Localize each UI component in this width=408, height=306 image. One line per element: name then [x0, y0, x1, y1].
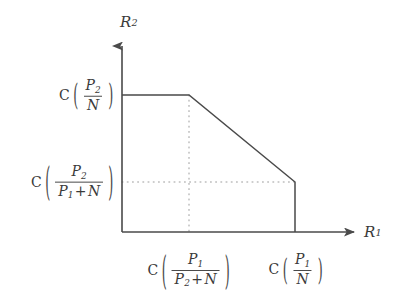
- denominator-operator: +: [190, 271, 205, 287]
- y-axis-label-sub: 2: [131, 17, 137, 28]
- fraction-denominator: P2+N: [172, 270, 220, 289]
- capacity-function-symbol: C: [31, 174, 42, 190]
- fraction: P2 P1+N: [55, 164, 103, 201]
- numerator-sub: 2: [81, 171, 87, 180]
- left-paren-icon: (: [45, 160, 50, 204]
- denominator-right: N: [204, 271, 216, 287]
- x-axis-label-sub: 1: [375, 227, 381, 238]
- right-paren-icon: ): [318, 252, 323, 286]
- denominator-left-base: P: [58, 182, 67, 198]
- numerator-sub: 1: [198, 260, 204, 269]
- denominator-left-base: P: [175, 271, 184, 287]
- x-axis-label-base: R: [364, 223, 375, 241]
- right-paren-icon: ): [108, 78, 113, 112]
- fraction-denominator: N: [84, 95, 102, 112]
- y-axis-label: R2: [120, 12, 138, 31]
- numerator-base: P: [85, 77, 94, 93]
- numerator-sub: 2: [95, 85, 101, 94]
- y-tick-label-lower: C ( P2 P1+N ): [31, 164, 116, 201]
- left-paren-icon: (: [282, 252, 287, 286]
- fraction: P1 N: [292, 252, 313, 287]
- right-paren-icon: ): [224, 248, 229, 292]
- capacity-function-symbol: C: [268, 261, 279, 277]
- left-paren-icon: (: [162, 248, 167, 292]
- x-axis-label: R1: [364, 222, 382, 241]
- denominator-right: N: [88, 182, 100, 198]
- x-tick-label-left: C ( P1 P2+N ): [148, 252, 233, 289]
- fraction-numerator: P1: [292, 252, 313, 270]
- fraction-numerator: P2: [68, 164, 89, 182]
- x-tick-label-right: C ( P1 N ): [268, 252, 325, 287]
- numerator-sub: 1: [305, 260, 311, 269]
- numerator-base: P: [188, 251, 197, 267]
- left-paren-icon: (: [73, 78, 78, 112]
- y-axis-label-base: R: [120, 13, 131, 31]
- capacity-function-symbol: C: [59, 87, 70, 103]
- right-paren-icon: ): [108, 160, 113, 204]
- fraction-denominator: P1+N: [55, 181, 103, 200]
- fraction: P2 N: [82, 78, 103, 113]
- y-tick-label-upper: C ( P2 N ): [59, 78, 116, 113]
- numerator-base: P: [295, 251, 304, 267]
- denominator-operator: +: [73, 182, 88, 198]
- fraction-numerator: P1: [185, 252, 206, 270]
- capacity-function-symbol: C: [148, 262, 159, 278]
- capacity-region-boundary: [122, 95, 295, 232]
- capacity-region-figure: R2 R1 C ( P2 N ) C (: [0, 0, 408, 306]
- fraction: P1 P2+N: [172, 252, 220, 289]
- denominator-value: N: [87, 97, 99, 113]
- denominator-value: N: [297, 271, 309, 287]
- fraction-denominator: N: [293, 270, 311, 287]
- numerator-base: P: [72, 163, 81, 179]
- fraction-numerator: P2: [82, 78, 103, 96]
